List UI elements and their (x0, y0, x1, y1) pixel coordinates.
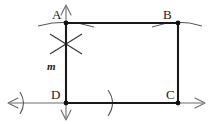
vertex-label-d: D (51, 88, 60, 101)
vertex-point-D (64, 101, 69, 106)
vertex-point-B (176, 21, 181, 26)
vertex-point-A (64, 21, 69, 26)
vertex-label-a: A (52, 8, 61, 21)
geometry-figure: A B C D m (0, 0, 211, 124)
vertex-dots-group (64, 21, 181, 106)
vertex-point-C (176, 101, 181, 106)
rectangle-ABCD (66, 23, 178, 103)
vertex-label-c: C (166, 88, 175, 101)
vertex-label-b: B (163, 8, 172, 21)
geometry-canvas (0, 0, 211, 124)
line-label-m: m (47, 61, 56, 72)
